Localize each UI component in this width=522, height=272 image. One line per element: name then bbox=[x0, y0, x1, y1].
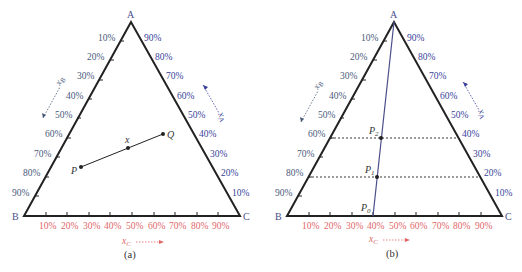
arrow-icon bbox=[300, 117, 304, 122]
label-p0: P0 bbox=[360, 202, 371, 215]
svg-text:50%: 50% bbox=[126, 221, 144, 231]
svg-text:70%: 70% bbox=[429, 71, 447, 81]
svg-text:80%: 80% bbox=[191, 221, 209, 231]
line-a-p0 bbox=[373, 22, 394, 216]
svg-text:50%: 50% bbox=[318, 110, 336, 120]
mixing-line-pq: P x Q bbox=[70, 129, 175, 176]
arrow-icon bbox=[203, 85, 208, 90]
svg-text:90%: 90% bbox=[475, 221, 493, 231]
svg-text:10%: 10% bbox=[39, 221, 57, 231]
right-axis-ticks-a: 90% 80% 70% 60% 50% 40% 30% 20% 10% bbox=[144, 33, 250, 198]
svg-text:60%: 60% bbox=[148, 221, 166, 231]
svg-text:20%: 20% bbox=[221, 168, 239, 178]
axis-label-xc-a: xC bbox=[121, 236, 164, 248]
svg-text:30%: 30% bbox=[210, 149, 228, 159]
svg-text:70%: 70% bbox=[166, 71, 184, 81]
caption-b: (b) bbox=[386, 248, 399, 260]
svg-text:20%: 20% bbox=[324, 221, 342, 231]
svg-text:30%: 30% bbox=[346, 221, 364, 231]
svg-text:40%: 40% bbox=[104, 221, 122, 231]
panel-b: A B C 10% 20% 30% 40% 50% 60% 70% 80% 90… bbox=[275, 9, 513, 260]
svg-text:90%: 90% bbox=[144, 33, 162, 43]
point-p bbox=[79, 165, 83, 169]
svg-text:70%: 70% bbox=[169, 221, 187, 231]
point-p2 bbox=[379, 136, 383, 140]
svg-text:40%: 40% bbox=[329, 91, 347, 101]
svg-text:80%: 80% bbox=[286, 168, 304, 178]
svg-text:80%: 80% bbox=[418, 52, 436, 62]
svg-text:xA: xA bbox=[214, 109, 229, 124]
svg-text:60%: 60% bbox=[177, 91, 195, 101]
svg-text:70%: 70% bbox=[34, 149, 52, 159]
svg-text:20%: 20% bbox=[484, 168, 502, 178]
svg-text:90%: 90% bbox=[275, 188, 293, 198]
svg-text:40%: 40% bbox=[462, 129, 480, 139]
svg-text:30%: 30% bbox=[77, 71, 95, 81]
left-axis-ticks-b: 10% 20% 30% 40% 50% 60% 70% 80% 90% bbox=[275, 33, 379, 198]
svg-text:20%: 20% bbox=[61, 221, 79, 231]
svg-text:10%: 10% bbox=[361, 33, 379, 43]
svg-text:xC: xC bbox=[368, 234, 378, 246]
svg-text:20%: 20% bbox=[87, 52, 105, 62]
vertex-b-label: B bbox=[275, 211, 282, 222]
caption-a: (a) bbox=[124, 249, 136, 261]
vertex-a-label: A bbox=[127, 9, 135, 20]
svg-text:10%: 10% bbox=[495, 188, 513, 198]
axis-label-xc-b: xC bbox=[368, 234, 410, 246]
bottom-axis-ticks-b: 10% 20% 30% 40% 50% 60% 70% 80% 90% bbox=[302, 221, 493, 231]
svg-text:50%: 50% bbox=[451, 110, 469, 120]
svg-text:70%: 70% bbox=[432, 221, 450, 231]
vertex-b-label: B bbox=[12, 211, 19, 222]
svg-text:10%: 10% bbox=[302, 221, 320, 231]
svg-text:10%: 10% bbox=[232, 188, 250, 198]
svg-text:10%: 10% bbox=[98, 33, 116, 43]
axis-label-xa-a: xA bbox=[203, 85, 229, 124]
point-x bbox=[126, 146, 130, 150]
vertex-a-label: A bbox=[390, 9, 398, 20]
svg-text:60%: 60% bbox=[440, 91, 458, 101]
svg-text:90%: 90% bbox=[212, 221, 230, 231]
svg-text:50%: 50% bbox=[389, 221, 407, 231]
label-p2: P2 bbox=[368, 125, 379, 138]
vertex-c-label: C bbox=[243, 211, 250, 222]
arrow-icon bbox=[463, 82, 468, 87]
svg-text:80%: 80% bbox=[23, 168, 41, 178]
svg-text:x: x bbox=[124, 134, 130, 145]
bottom-axis-ticks-a: 10% 20% 30% 40% 50% 60% 70% 80% 90% bbox=[39, 221, 230, 231]
arrow-icon bbox=[405, 238, 410, 242]
svg-text:90%: 90% bbox=[407, 33, 425, 43]
svg-text:xA: xA bbox=[474, 106, 489, 121]
svg-text:50%: 50% bbox=[188, 110, 206, 120]
svg-text:P: P bbox=[70, 165, 77, 176]
svg-text:60%: 60% bbox=[410, 221, 428, 231]
ternary-diagrams: A B C 10% 20% 30% 40% 50% 60% 70% 80% 90… bbox=[0, 0, 522, 272]
svg-text:20%: 20% bbox=[350, 52, 368, 62]
svg-text:xB: xB bbox=[311, 78, 326, 93]
svg-text:40%: 40% bbox=[199, 129, 217, 139]
point-q bbox=[161, 132, 165, 136]
svg-text:40%: 40% bbox=[367, 221, 385, 231]
svg-text:70%: 70% bbox=[297, 149, 315, 159]
point-p1 bbox=[375, 175, 379, 179]
svg-text:90%: 90% bbox=[12, 188, 30, 198]
svg-text:60%: 60% bbox=[308, 129, 326, 139]
arrow-icon bbox=[159, 240, 164, 244]
svg-text:Q: Q bbox=[167, 129, 175, 140]
left-axis-ticks-a: 10% 20% 30% 40% 50% 60% 70% 80% 90% bbox=[12, 33, 116, 198]
arrow-icon bbox=[42, 113, 46, 118]
svg-text:30%: 30% bbox=[473, 149, 491, 159]
svg-text:80%: 80% bbox=[453, 221, 471, 231]
svg-text:xB: xB bbox=[53, 74, 68, 89]
svg-text:xC: xC bbox=[121, 236, 131, 248]
svg-text:80%: 80% bbox=[155, 52, 173, 62]
svg-text:50%: 50% bbox=[55, 110, 73, 120]
label-p1: P1 bbox=[364, 164, 375, 177]
panel-a: A B C 10% 20% 30% 40% 50% 60% 70% 80% 90… bbox=[12, 9, 250, 261]
vertex-c-label: C bbox=[505, 211, 512, 222]
svg-text:60%: 60% bbox=[45, 129, 63, 139]
svg-text:40%: 40% bbox=[66, 91, 84, 101]
right-axis-ticks-b: 90% 80% 70% 60% 50% 40% 30% 20% 10% bbox=[407, 33, 513, 198]
svg-text:30%: 30% bbox=[340, 71, 358, 81]
svg-text:30%: 30% bbox=[83, 221, 101, 231]
